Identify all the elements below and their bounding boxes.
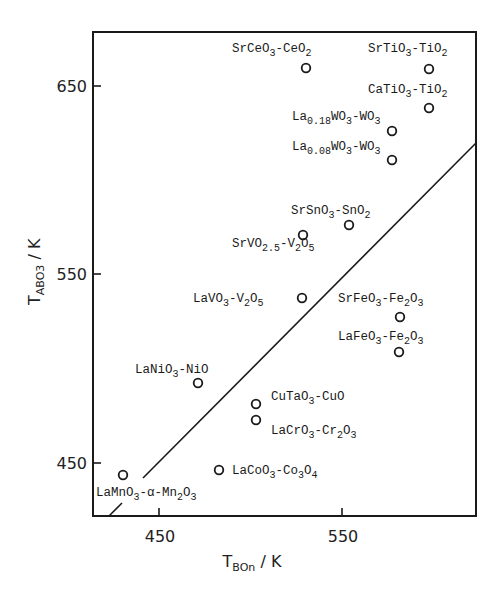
point-lacro3 [252,416,261,425]
x-tick-label-550: 550 [328,527,359,546]
label-catio3: CaTiO3-TiO2 [368,83,448,100]
y-axis-label: TABO3 / K [25,238,47,306]
plot-frame [93,32,476,516]
point-la018wo3 [388,127,397,136]
label-cutao3: CuTaO3-CuO [271,390,345,407]
label-lavo3: LaVO3-V2O5 [193,292,264,309]
y-axis: 650 550 450 TABO3 / K [25,77,101,473]
scatter-chart: 650 550 450 TABO3 / K 450 550 TBOn / K [0,0,494,593]
x-tick-label-450: 450 [145,527,176,546]
point-labels: SrCeO3-CeO2 SrTiO3-TiO2 CaTiO3-TiO2 La0.… [96,42,448,503]
point-la008wo3 [388,156,397,165]
point-lavo3 [298,294,307,303]
label-srvo25: SrVO2.5-V2O5 [232,237,315,254]
point-catio3 [425,104,434,113]
label-la018wo3: La0.18WO3-WO3 [292,110,381,127]
label-srsno3: SrSnO3-SnO2 [291,204,371,221]
point-srceo3 [302,64,311,73]
data-points [119,64,434,480]
x-axis-label: TBOn / K [222,552,282,574]
point-srfeo3 [396,313,405,322]
reference-line [109,143,476,516]
point-srsno3 [345,221,354,230]
label-lacoo3: LaCoO3-Co3O4 [232,464,318,481]
label-lafeo3: LaFeO3-Fe2O3 [338,330,424,347]
label-srfeo3: SrFeO3-Fe2O3 [338,292,424,309]
point-lamno3 [119,471,128,480]
point-lanio3 [194,379,203,388]
label-srceo3: SrCeO3-CeO2 [232,42,312,59]
y-tick-label-450: 450 [56,454,87,473]
label-srtio3: SrTiO3-TiO2 [368,42,448,59]
label-la008wo3: La0.08WO3-WO3 [292,140,381,157]
x-axis: 450 550 TBOn / K [145,508,359,574]
point-cutao3 [252,400,261,409]
y-tick-label-650: 650 [56,77,87,96]
point-lacoo3 [215,466,224,475]
y-tick-label-550: 550 [56,265,87,284]
label-lacro3: LaCrO3-Cr2O3 [271,424,357,441]
point-srtio3 [425,65,434,74]
label-lanio3: LaNiO3-NiO [135,363,209,380]
label-lamno3: LaMnO3-α-Mn2O3 [96,486,197,503]
point-lafeo3 [395,348,404,357]
